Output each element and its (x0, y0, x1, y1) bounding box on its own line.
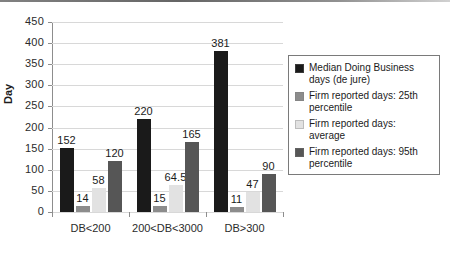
bar (153, 206, 167, 212)
plot-area: 15214581202201564.5165381114790 (52, 22, 283, 212)
legend-item-label: Firm reported days: 25th percentile (309, 90, 434, 113)
x-axis-tick-label: DB>300 (195, 222, 295, 234)
legend-swatch-icon (295, 120, 304, 129)
y-axis-tick-label: 350 (10, 57, 44, 69)
y-axis-tick-label: 300 (10, 78, 44, 90)
x-axis-tick (206, 212, 207, 217)
bar (246, 192, 260, 212)
legend-item[interactable]: Median Doing Business days (de jure) (295, 62, 434, 85)
chart-figure: Day 450400350300250200150100500 15214581… (0, 0, 450, 255)
top-divider-rule (0, 0, 450, 2)
legend-item[interactable]: Firm reported days: 25th percentile (295, 90, 434, 113)
y-axis-tick-label: 450 (10, 15, 44, 27)
x-axis-tick (52, 212, 53, 217)
legend-item[interactable]: Firm reported days: average (295, 118, 434, 141)
bar-value-label: 120 (98, 147, 132, 159)
bar (169, 185, 183, 212)
legend-item-label: Median Doing Business days (de jure) (309, 62, 434, 85)
bar-value-label: 381 (204, 37, 238, 49)
bar-value-label: 220 (127, 105, 161, 117)
bar-value-label: 165 (175, 128, 209, 140)
y-axis-tick-label: 50 (10, 184, 44, 196)
gridline (52, 212, 283, 213)
bar (230, 207, 244, 212)
bar (108, 161, 122, 212)
y-axis-tick-label: 100 (10, 163, 44, 175)
x-axis-tick (283, 212, 284, 217)
bar (185, 142, 199, 212)
x-axis-tick (129, 212, 130, 217)
y-axis-tick-label: 150 (10, 142, 44, 154)
legend-swatch-icon (295, 64, 304, 73)
bar-value-label: 90 (252, 160, 286, 172)
legend-swatch-icon (295, 148, 304, 157)
y-axis-tick-label: 0 (10, 205, 44, 217)
chart-legend: Median Doing Business days (de jure)Firm… (288, 55, 440, 175)
bar-value-label: 152 (50, 134, 84, 146)
legend-item[interactable]: Firm reported days: 95th percentile (295, 146, 434, 169)
legend-swatch-icon (295, 92, 304, 101)
y-axis-tick-label: 200 (10, 121, 44, 133)
legend-item-label: Firm reported days: average (309, 118, 434, 141)
y-axis-tick-label: 400 (10, 36, 44, 48)
bar (92, 188, 106, 212)
legend-item-label: Firm reported days: 95th percentile (309, 146, 434, 169)
bar (76, 206, 90, 212)
bar (262, 174, 276, 212)
y-axis-tick-label: 250 (10, 99, 44, 111)
bar (214, 51, 228, 212)
